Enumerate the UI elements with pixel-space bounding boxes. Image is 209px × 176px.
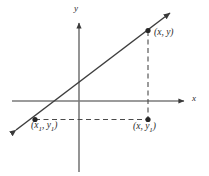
- figure-canvas: [0, 0, 209, 176]
- coordinate-plane-figure: y x (x, y) (x1, y1) (x, y1): [0, 0, 209, 176]
- point-label-xy1: (x, y1): [133, 122, 156, 134]
- point-marker-xy: [145, 28, 150, 33]
- point-xy1-x: x: [136, 121, 140, 131]
- x-axis-label: x: [192, 94, 196, 103]
- point-label-x1y1: (x1, y1): [31, 121, 58, 133]
- y-axis-label: y: [74, 4, 78, 13]
- point-xy-x: x: [157, 27, 161, 37]
- point-x1y1-x-sub: 1: [38, 125, 42, 133]
- point-xy1-y-sub: 1: [149, 126, 153, 134]
- point-x1y1-y-sub: 1: [51, 125, 55, 133]
- point-xy-y: y: [166, 27, 170, 37]
- point-label-xy: (x, y): [154, 28, 174, 38]
